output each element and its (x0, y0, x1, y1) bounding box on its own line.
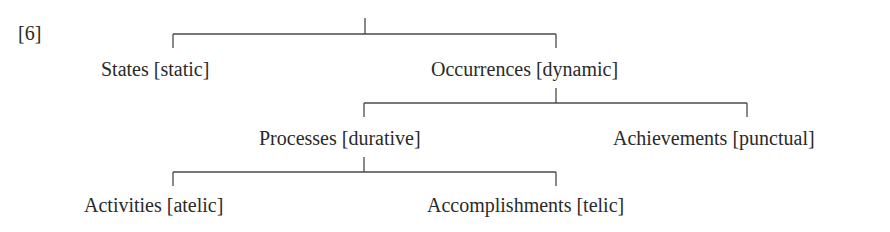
node-activities: Activities [atelic] (84, 195, 223, 215)
node-occurrences: Occurrences [dynamic] (431, 59, 618, 79)
aspect-classification-tree: [6] States [static] Occurrences [dynamic… (0, 0, 890, 232)
figure-number: [6] (18, 23, 41, 43)
node-states: States [static] (101, 59, 209, 79)
node-accomplishments: Accomplishments [telic] (427, 195, 624, 215)
node-achievements: Achievements [punctual] (613, 128, 815, 148)
node-processes: Processes [durative] (259, 128, 421, 148)
